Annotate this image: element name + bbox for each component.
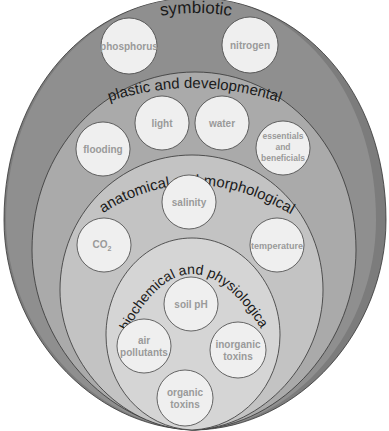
svg-text:toxins: toxins: [170, 399, 200, 410]
svg-text:phosphorus: phosphorus: [100, 41, 158, 52]
svg-text:beneficials: beneficials: [261, 153, 305, 163]
svg-text:soil pH: soil pH: [174, 299, 207, 310]
factor-salinity: salinity: [162, 175, 216, 229]
factor-water: water: [195, 96, 249, 150]
nested-stress-diagram: symbiotic plastic and developmental anat…: [0, 0, 389, 431]
factor-soil-ph: soil pH: [164, 277, 218, 331]
svg-text:salinity: salinity: [172, 197, 207, 208]
svg-text:flooding: flooding: [83, 144, 122, 155]
factor-flooding: flooding: [76, 122, 130, 176]
svg-text:inorganic: inorganic: [215, 339, 260, 350]
svg-text:pollutants: pollutants: [120, 347, 168, 358]
svg-text:essentials: essentials: [262, 131, 303, 141]
factor-nitrogen: nitrogen: [222, 17, 278, 73]
layer-label-symbiotic: symbiotic: [159, 0, 234, 20]
factor-light: light: [135, 96, 189, 150]
factor-essentials-beneficials: essentials and beneficials: [256, 121, 310, 175]
svg-text:toxins: toxins: [223, 351, 253, 362]
svg-text:air: air: [138, 335, 150, 346]
svg-text:light: light: [151, 118, 173, 129]
svg-text:temperature: temperature: [251, 241, 303, 251]
svg-text:organic: organic: [167, 387, 204, 398]
svg-text:and: and: [275, 142, 290, 152]
factor-air-pollutants: air pollutants: [117, 319, 171, 373]
factor-inorganic-toxins: inorganic toxins: [210, 322, 266, 378]
svg-text:water: water: [208, 118, 235, 129]
factor-co2: CO2: [77, 218, 131, 272]
factor-organic-toxins: organic toxins: [157, 370, 213, 426]
factor-temperature: temperature: [250, 218, 304, 272]
svg-text:nitrogen: nitrogen: [230, 40, 270, 51]
